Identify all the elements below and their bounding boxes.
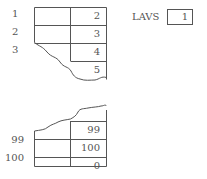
cell-value: 2 xyxy=(72,10,100,22)
row-label: 100 xyxy=(0,152,24,164)
row-label: 2 xyxy=(12,26,18,38)
row-label: 3 xyxy=(12,44,18,56)
row-label: 99 xyxy=(0,134,24,146)
cell-value: 0 xyxy=(72,160,100,172)
table-diagram xyxy=(0,0,207,179)
row-label: 1 xyxy=(12,8,18,20)
cell-value: 100 xyxy=(72,142,100,154)
cell-value: 4 xyxy=(72,46,100,58)
cell-value: 5 xyxy=(72,64,100,76)
lavs-value: 1 xyxy=(168,11,188,23)
cell-value: 99 xyxy=(72,124,100,136)
lavs-label: LAVS xyxy=(132,11,159,23)
cell-value: 3 xyxy=(72,28,100,40)
